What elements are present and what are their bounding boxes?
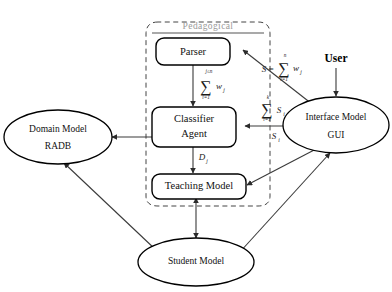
edge-label-score-sum: k ∑ i=1 S i [261, 94, 285, 122]
node-domain-label-line2: RADB [45, 141, 71, 151]
weight-sum-term-sub: j [299, 69, 302, 75]
score-sum-lower-limit: i=1 [263, 116, 271, 122]
edge-label-score-single: S i [272, 131, 280, 143]
node-user-label: User [325, 52, 348, 64]
pedagogical-group-label: Pedagogical [183, 21, 234, 31]
edge-student-interface [239, 153, 330, 253]
node-interface-label-line1: Interface Model [306, 112, 367, 122]
edge-interface-to-parser [243, 50, 312, 104]
node-parser-label: Parser [180, 46, 207, 57]
weight-sum-equals: = [268, 64, 274, 74]
node-student-model[interactable]: Student Model [138, 238, 254, 286]
node-student-label: Student Model [168, 256, 225, 266]
node-classifier-label-line2: Agent [181, 128, 207, 139]
node-teaching-label: Teaching Model [165, 180, 233, 191]
weight-sum-lower-limit: i=1 [280, 76, 288, 82]
weight-sum-term: w [293, 63, 299, 73]
edge-label-classifier-to-teaching: D j [198, 152, 208, 164]
edge-label-parser-to-classifier: j≤n ∑ i=1 w j [200, 68, 225, 100]
score-sum-term: S [277, 105, 282, 115]
score-sum-upper-limit: k [267, 94, 270, 100]
node-domain-label-line1: Domain Model [29, 124, 87, 134]
weight-sum-upper-limit: n [284, 52, 287, 58]
node-interface-label-line2: GUI [328, 130, 345, 140]
node-classifier-label-line1: Classifier [174, 113, 215, 124]
parser-sum-term: w [216, 81, 222, 91]
node-parser[interactable]: Parser [156, 38, 230, 65]
decision-term-sub: j [205, 158, 208, 164]
node-teaching-model[interactable]: Teaching Model [152, 174, 246, 199]
node-classifier-agent[interactable]: Classifier Agent [152, 107, 236, 147]
node-interface-model[interactable]: Interface Model GUI [283, 97, 389, 153]
edge-domain-student [64, 163, 156, 250]
node-domain-model[interactable]: Domain Model RADB [4, 110, 112, 164]
decision-term: D [198, 152, 206, 162]
parser-sum-lower-limit: i=1 [202, 94, 210, 100]
architecture-diagram: Pedagogical Parser Classi [0, 0, 392, 292]
score-single-term-sub: i [278, 137, 280, 143]
parser-sum-term-sub: j [222, 87, 225, 93]
parser-sum-upper-limit: j≤n [205, 68, 213, 74]
edge-label-weight-sum: S = n ∑ i=1 w j [262, 52, 302, 82]
edge-interface-to-teaching [247, 148, 318, 185]
weight-sum-prefix: S [262, 64, 267, 74]
diagram-canvas: Pedagogical Parser Classi [0, 0, 392, 292]
score-single-term: S [272, 131, 277, 141]
